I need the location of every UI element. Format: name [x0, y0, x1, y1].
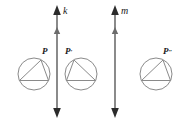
shape-p-double-prime-circle: [140, 58, 172, 90]
line-k-top-arrowhead: [53, 5, 61, 15]
shape-p-double-prime-triangle: [142, 60, 171, 81]
shape-p-double-prime-group: P″: [140, 46, 173, 90]
shape-p-prime-triangle: [67, 60, 96, 81]
shape-p-triangle: [20, 60, 49, 81]
line-k-mid-arrowhead: [54, 27, 60, 34]
shape-p-prime-label: P′: [65, 46, 73, 56]
shape-p-double-prime-label: P″: [163, 46, 173, 56]
line-m-bottom-arrowhead: [111, 108, 119, 118]
line-m-label: m: [121, 5, 128, 16]
shape-p-double-prime-label-prime: ″: [169, 48, 173, 56]
diagram-canvas: k m P P′ P″: [0, 0, 183, 124]
line-m-mid-arrowhead: [112, 27, 118, 34]
shape-p-group: P: [18, 46, 50, 90]
shape-p-prime-group: P′: [65, 46, 97, 90]
reflection-diagram: k m P P′ P″: [0, 0, 183, 124]
line-k-bottom-arrowhead: [53, 108, 61, 118]
shape-p-prime-circle: [65, 58, 97, 90]
line-m-top-arrowhead: [111, 5, 119, 15]
line-m-group: m: [111, 5, 128, 118]
shape-p-label-letter: P: [42, 46, 48, 56]
shape-p-prime-label-prime: ′: [71, 48, 73, 56]
line-k-group: k: [53, 5, 68, 118]
shape-p-circle: [18, 58, 50, 90]
shape-p-label: P: [42, 46, 48, 56]
line-k-label: k: [63, 5, 68, 16]
